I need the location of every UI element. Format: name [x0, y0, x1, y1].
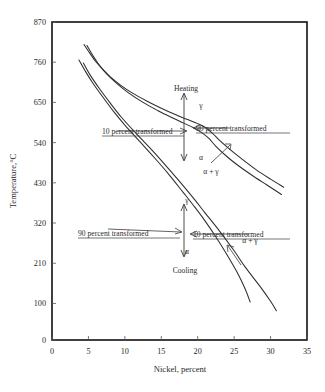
y-tick-label: 320 [34, 219, 46, 228]
heating-10-percent-label: 10 percent transformed [102, 127, 173, 136]
x-tick-label: 30 [266, 347, 274, 356]
x-axis-tick-labels: 05101520253035 [50, 347, 311, 356]
heating-label: Heating [174, 84, 198, 93]
chart-figure: 0100210320430540650760870 05101520253035… [0, 0, 325, 392]
y-tick-label: 430 [34, 179, 46, 188]
heating-transition-arrow [181, 93, 187, 161]
cooling-alpha-gamma-leader [227, 245, 241, 265]
y-tick-label: 650 [34, 98, 46, 107]
x-tick-label: 5 [86, 347, 90, 356]
x-tick-label: 20 [194, 347, 202, 356]
heating-alpha-gamma-leader [211, 144, 231, 163]
y-tick-label: 540 [34, 139, 46, 148]
cooling-90-percent-label: 90 percent transformed [78, 229, 149, 238]
cooling-gamma-label: γ [184, 196, 189, 205]
x-tick-label: 35 [303, 347, 311, 356]
y-tick-label: 210 [34, 259, 46, 268]
cooling-alpha-label: α [185, 247, 189, 256]
heating-90-percent-label: 90 percent transformed [196, 124, 267, 133]
y-axis-tick-labels: 0100210320430540650760870 [34, 18, 46, 345]
y-tick-label: 100 [34, 299, 46, 308]
x-tick-label: 25 [230, 347, 238, 356]
x-axis-title: Nickel, percent [154, 364, 207, 374]
cooling-10-percent-label: 10 percent transformed [193, 230, 264, 239]
x-tick-label: 10 [121, 347, 129, 356]
y-tick-label: 760 [34, 58, 46, 67]
heating-alpha-label: α [199, 153, 203, 162]
x-tick-label: 15 [157, 347, 165, 356]
phase-transformation-chart: 0100210320430540650760870 05101520253035… [0, 0, 325, 392]
heating-alpha-gamma-label: α + γ [203, 167, 219, 176]
y-tick-label: 870 [34, 18, 46, 27]
x-tick-label: 0 [50, 347, 54, 356]
cooling-label: Cooling [173, 266, 198, 275]
y-tick-label: 0 [42, 336, 46, 345]
y-axis-title: Temperature,°C [8, 153, 18, 208]
heating-gamma-label: γ [198, 101, 203, 110]
